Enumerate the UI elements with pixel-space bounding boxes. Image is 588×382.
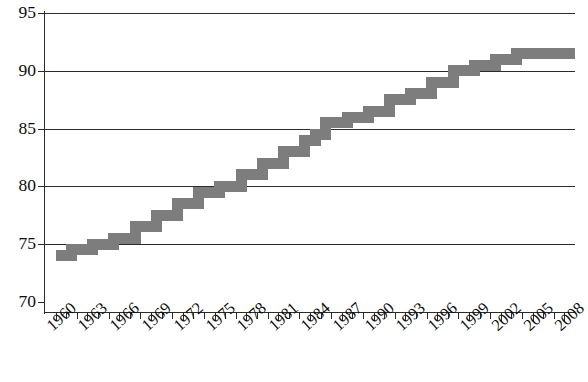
step-riser — [172, 198, 183, 221]
x-tick-label: 1981 — [266, 300, 302, 334]
step-run — [432, 77, 453, 88]
step-riser — [214, 181, 225, 198]
y-tick-label: 85 — [0, 120, 36, 138]
step-riser — [490, 54, 501, 71]
y-axis-line — [44, 11, 45, 314]
step-run — [199, 187, 220, 198]
step-riser — [87, 239, 98, 256]
x-tick-label: 1975 — [203, 300, 239, 334]
step-riser — [151, 210, 162, 233]
x-tick-label: 2002 — [489, 300, 525, 334]
step-run — [284, 146, 305, 157]
x-tick-label: 1963 — [75, 300, 111, 334]
x-tick-label: 2008 — [552, 300, 588, 334]
step-riser — [426, 77, 437, 100]
step-riser — [66, 244, 77, 261]
y-tick-label: 70 — [0, 293, 36, 311]
gridline-80 — [45, 186, 575, 187]
step-riser — [363, 106, 374, 123]
step-riser — [278, 146, 289, 169]
step-riser — [193, 187, 204, 210]
x-tick-label: 1987 — [330, 300, 366, 334]
x-tick-label: 1993 — [393, 300, 429, 334]
step-run — [241, 169, 262, 180]
x-tick-label: 1996 — [425, 300, 461, 334]
step-riser — [405, 88, 416, 105]
y-tick-label: 75 — [0, 235, 36, 253]
step-run — [496, 54, 517, 65]
step-riser — [310, 129, 321, 146]
step-run — [135, 221, 156, 232]
step-run — [315, 129, 326, 140]
step-riser — [236, 169, 247, 192]
x-tick-label: 1969 — [139, 300, 175, 334]
step-run — [368, 106, 389, 117]
step-run — [114, 233, 135, 244]
step-riser — [469, 60, 480, 77]
gridline-95 — [45, 13, 575, 14]
step-run — [178, 198, 199, 209]
gridline-85 — [45, 129, 575, 130]
x-tick-label: 1984 — [298, 300, 334, 334]
step-riser — [384, 94, 395, 117]
x-tick-label: 1960 — [44, 300, 80, 334]
x-tick-label: 2005 — [521, 300, 557, 334]
x-tick-label: 1966 — [107, 300, 143, 334]
x-tick-label: 1990 — [362, 300, 398, 334]
step-run — [156, 210, 177, 221]
step-riser — [130, 221, 141, 244]
step-run — [56, 250, 72, 261]
x-tick-label: 1978 — [234, 300, 270, 334]
y-tick-label: 80 — [0, 177, 36, 195]
step-run — [517, 48, 575, 59]
y-tick-label: 95 — [0, 4, 36, 22]
step-run — [305, 135, 316, 146]
x-tick-label: 1999 — [457, 300, 493, 334]
step-riser — [108, 233, 119, 250]
step-riser — [511, 48, 522, 65]
step-run — [390, 94, 411, 105]
step-riser — [342, 112, 353, 129]
step-run — [326, 117, 347, 128]
step-riser — [299, 135, 310, 158]
step-riser — [257, 158, 268, 181]
step-run — [347, 112, 368, 123]
gridline-75 — [45, 244, 575, 245]
gridline-90 — [45, 71, 575, 72]
step-run — [262, 158, 283, 169]
step-run — [411, 88, 432, 99]
step-run — [72, 244, 93, 255]
y-tick-label: 90 — [0, 62, 36, 80]
step-riser — [448, 65, 459, 88]
x-tick-label: 1972 — [171, 300, 207, 334]
step-run — [474, 60, 495, 71]
